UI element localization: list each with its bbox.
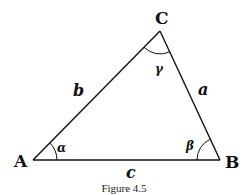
side-label-c: c (126, 163, 136, 182)
angle-beta-arc (197, 139, 210, 160)
angle-alpha-arc (50, 143, 57, 160)
vertex-label-a: A (13, 151, 28, 171)
angle-label-beta: β (185, 139, 194, 153)
side-label-a: a (198, 80, 208, 99)
angle-label-gamma: γ (155, 62, 164, 76)
vertex-label-b: B (225, 152, 239, 172)
figure-caption: Figure 4.5 (101, 182, 147, 194)
angle-gamma-arc (144, 47, 170, 54)
vertex-label-c: C (155, 8, 169, 28)
angle-label-alpha: α (57, 141, 66, 155)
side-b-line (33, 31, 160, 160)
triangle-diagram: C A B b a c α β γ Figure 4.5 (0, 0, 247, 195)
side-label-b: b (73, 81, 84, 100)
